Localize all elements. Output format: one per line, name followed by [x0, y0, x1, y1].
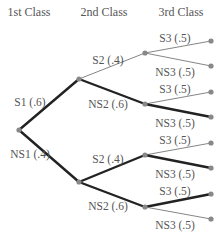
column-header: 2nd Class — [80, 5, 127, 19]
probability-tree-diagram: S1 (.6)NS1 (.4)S2 (.4)NS2 (.6)S2 (.4)NS2… — [0, 0, 224, 240]
branch-label: S2 (.4) — [92, 153, 123, 166]
tree-node-s1 — [76, 76, 81, 81]
tree-node-ns1 — [76, 179, 81, 184]
branch-line-ns1_s2-to-leaf6 — [145, 155, 211, 168]
branch-label: S2 (.4) — [92, 54, 123, 67]
tree-node-leaf7 — [208, 191, 213, 196]
branch-label: NS2 (.6) — [88, 98, 128, 111]
branch-label: NS3 (.5) — [155, 219, 195, 232]
tree-node-leaf8 — [208, 216, 213, 221]
branch-label: NS3 (.5) — [155, 117, 195, 130]
column-header: 3rd Class — [159, 5, 204, 19]
tree-node-leaf5 — [208, 140, 213, 145]
tree-node-s1_ns2 — [142, 101, 147, 106]
tree-node-leaf6 — [208, 165, 213, 170]
branch-line-s1_ns2-to-leaf4 — [145, 104, 211, 117]
tree-node-leaf4 — [208, 114, 213, 119]
tree-node-ns1_s2 — [142, 152, 147, 157]
branch-label: NS2 (.6) — [88, 200, 128, 213]
tree-node-root — [16, 127, 21, 132]
branch-label: NS3 (.5) — [155, 66, 195, 79]
branch-line-ns1_ns2-to-leaf8 — [145, 207, 211, 219]
branch-label: NS3 (.5) — [155, 168, 195, 181]
column-headers: 1st Class2nd Class3rd Class — [7, 5, 203, 19]
branch-line-s1_s2-to-leaf2 — [145, 53, 211, 66]
tree-node-leaf3 — [208, 89, 213, 94]
branch-label: S1 (.6) — [14, 96, 45, 109]
branch-label: S3 (.5) — [159, 32, 190, 45]
branch-label: NS1 (.4) — [10, 148, 50, 161]
branch-label: S3 (.5) — [159, 83, 190, 96]
column-header: 1st Class — [7, 5, 50, 19]
branch-label: S3 (.5) — [159, 134, 190, 147]
tree-node-leaf1 — [208, 38, 213, 43]
tree-node-ns1_ns2 — [142, 204, 147, 209]
tree-node-leaf2 — [208, 63, 213, 68]
branch-label: S3 (.5) — [159, 185, 190, 198]
tree-node-s1_s2 — [142, 50, 147, 55]
